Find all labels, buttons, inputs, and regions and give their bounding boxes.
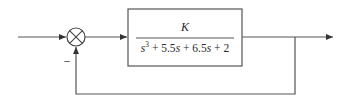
plant-transfer-function-block — [128, 9, 242, 66]
block-diagram: K s3 + 5.5s + 6.5s + 2 – — [0, 0, 350, 107]
tf-numerator: K — [180, 20, 190, 34]
feedback-minus-sign: – — [64, 55, 70, 66]
tf-denominator: s3 + 5.5s + 6.5s + 2 — [141, 40, 230, 54]
summing-junction — [67, 28, 85, 46]
